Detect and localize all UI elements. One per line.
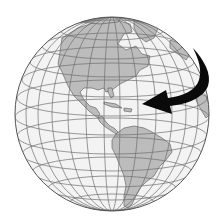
- globe-illustration: Earth globe showing the Americas with a …: [0, 0, 222, 224]
- globe-svg: [0, 0, 222, 224]
- hispaniola: [124, 108, 132, 112]
